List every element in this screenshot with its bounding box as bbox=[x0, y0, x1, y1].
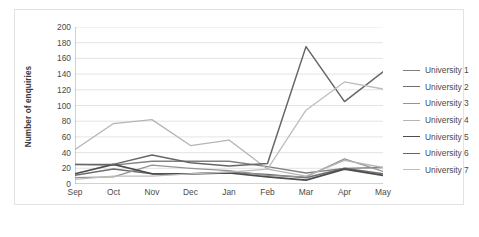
legend-item-label: University 6 bbox=[425, 148, 469, 158]
x-axis-tick-label: Jan bbox=[222, 187, 236, 197]
x-axis-tick-label: Oct bbox=[107, 187, 120, 197]
plot-area-wrapper: Number of enquiries 20018016014012010080… bbox=[15, 10, 395, 204]
x-axis-tick-label: Mar bbox=[299, 187, 313, 197]
legend-item[interactable]: University 6 bbox=[403, 145, 479, 162]
x-axis-tick-label: Nov bbox=[145, 187, 160, 197]
legend-item[interactable]: University 5 bbox=[403, 128, 479, 145]
series-line bbox=[75, 47, 383, 166]
y-axis-tick-label: 180 bbox=[37, 38, 71, 48]
x-axis-tick-label: May bbox=[375, 187, 391, 197]
x-axis-tick-label: Dec bbox=[183, 187, 198, 197]
legend-line-swatch bbox=[403, 169, 420, 170]
plot-area bbox=[75, 27, 383, 184]
legend-line-swatch bbox=[403, 86, 420, 87]
legend-item[interactable]: University 2 bbox=[403, 79, 479, 96]
y-axis-tick-label: 0 bbox=[37, 179, 71, 189]
chart-frame: Number of enquiries 20018016014012010080… bbox=[14, 9, 464, 205]
legend-item-label: University 1 bbox=[425, 65, 469, 75]
legend-item[interactable]: University 4 bbox=[403, 112, 479, 129]
legend-item-label: University 3 bbox=[425, 98, 469, 108]
series-line bbox=[75, 120, 383, 177]
legend-item-label: University 5 bbox=[425, 132, 469, 142]
y-axis-tick-label: 140 bbox=[37, 69, 71, 79]
y-axis-tick-label: 160 bbox=[37, 53, 71, 63]
legend-item[interactable]: University 1 bbox=[403, 62, 479, 79]
x-axis-tick-label: Apr bbox=[338, 187, 351, 197]
chart-figure: Number of enquiries 20018016014012010080… bbox=[0, 0, 479, 237]
y-axis-title-text: Number of enquiries bbox=[25, 65, 34, 147]
legend-item-label: University 4 bbox=[425, 115, 469, 125]
legend-line-swatch bbox=[403, 153, 420, 154]
y-axis-tick-label: 80 bbox=[37, 116, 71, 126]
legend-item[interactable]: University 3 bbox=[403, 95, 479, 112]
x-axis-tick-label: Sep bbox=[68, 187, 83, 197]
legend-item[interactable]: University 7 bbox=[403, 162, 479, 179]
x-axis-ticks: SepOctNovDecJanFebMarAprMay bbox=[75, 187, 383, 201]
y-axis-tick-label: 20 bbox=[37, 163, 71, 173]
chart-legend: University 1University 2University 3Univ… bbox=[403, 62, 479, 178]
legend-line-swatch bbox=[403, 136, 420, 137]
y-axis-tick-label: 120 bbox=[37, 85, 71, 95]
y-axis-tick-label: 60 bbox=[37, 132, 71, 142]
y-axis-ticks: 200180160140120100806040200 bbox=[37, 10, 71, 204]
legend-line-swatch bbox=[403, 103, 420, 104]
x-axis-tick-label: Feb bbox=[260, 187, 274, 197]
legend-line-swatch bbox=[403, 120, 420, 121]
y-axis-tick-label: 40 bbox=[37, 148, 71, 158]
y-axis-tick-label: 200 bbox=[37, 22, 71, 32]
legend-item-label: University 7 bbox=[425, 165, 469, 175]
line-chart-svg bbox=[75, 27, 383, 184]
y-axis-tick-label: 100 bbox=[37, 101, 71, 111]
legend-item-label: University 2 bbox=[425, 82, 469, 92]
y-axis-title: Number of enquiries bbox=[21, 46, 37, 166]
legend-line-swatch bbox=[403, 70, 420, 71]
